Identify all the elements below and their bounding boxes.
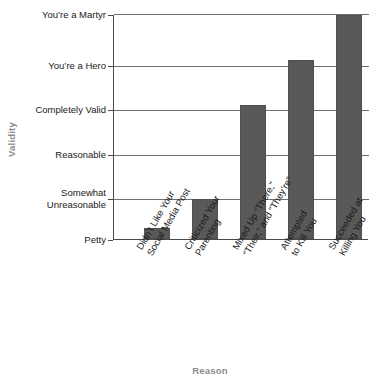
y-tick-label-completely-valid: Completely Valid xyxy=(0,104,106,116)
gridline-youre-a-martyr xyxy=(114,14,369,15)
x-axis-title: Reason xyxy=(150,365,270,376)
y-tick-label-reasonable: Reasonable xyxy=(0,149,106,161)
gridline-youre-a-hero xyxy=(114,66,369,67)
y-tick-label-youre-a-hero: You’re a Hero xyxy=(0,60,106,72)
y-tick-label-somewhat-unreasonable: Somewhat Unreasonable xyxy=(0,187,106,210)
y-tick-label-youre-a-martyr: You’re a Martyr xyxy=(0,9,106,21)
plot-area xyxy=(113,15,368,240)
bar-chart: Validity Petty Somewhat Unreasonable Rea… xyxy=(0,0,387,388)
y-tick-mark-petty xyxy=(108,240,113,241)
y-tick-label-petty: Petty xyxy=(0,234,106,246)
